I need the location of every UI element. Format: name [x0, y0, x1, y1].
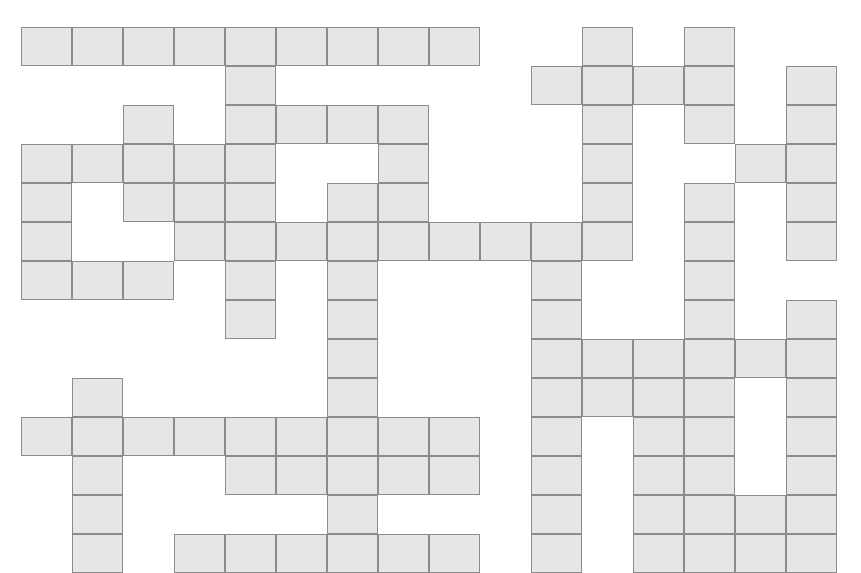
crossword-cell[interactable] — [225, 183, 276, 222]
crossword-cell[interactable] — [123, 144, 174, 183]
crossword-cell[interactable] — [429, 222, 480, 261]
crossword-cell[interactable] — [225, 534, 276, 573]
crossword-cell[interactable] — [174, 417, 225, 456]
crossword-cell[interactable] — [378, 534, 429, 573]
crossword-cell[interactable] — [786, 495, 837, 534]
crossword-cell[interactable] — [276, 456, 327, 495]
crossword-cell[interactable] — [378, 222, 429, 261]
crossword-cell[interactable] — [276, 222, 327, 261]
crossword-cell[interactable] — [174, 534, 225, 573]
crossword-cell[interactable] — [21, 144, 72, 183]
crossword-cell[interactable] — [531, 534, 582, 573]
crossword-cell[interactable] — [72, 456, 123, 495]
crossword-cell[interactable] — [531, 222, 582, 261]
crossword-cell[interactable] — [327, 261, 378, 300]
crossword-cell[interactable] — [684, 261, 735, 300]
crossword-cell[interactable] — [327, 300, 378, 339]
crossword-cell[interactable] — [735, 144, 786, 183]
crossword-cell[interactable] — [684, 105, 735, 144]
crossword-cell[interactable] — [72, 534, 123, 573]
crossword-cell[interactable] — [225, 417, 276, 456]
crossword-cell[interactable] — [531, 66, 582, 105]
crossword-cell[interactable] — [582, 222, 633, 261]
crossword-cell[interactable] — [684, 27, 735, 66]
crossword-cell[interactable] — [429, 456, 480, 495]
crossword-cell[interactable] — [684, 300, 735, 339]
crossword-cell[interactable] — [582, 27, 633, 66]
crossword-cell[interactable] — [327, 27, 378, 66]
crossword-cell[interactable] — [582, 105, 633, 144]
crossword-cell[interactable] — [123, 27, 174, 66]
crossword-cell[interactable] — [429, 534, 480, 573]
crossword-cell[interactable] — [72, 144, 123, 183]
crossword-cell[interactable] — [786, 456, 837, 495]
crossword-cell[interactable] — [786, 66, 837, 105]
crossword-cell[interactable] — [684, 417, 735, 456]
crossword-cell[interactable] — [327, 456, 378, 495]
crossword-cell[interactable] — [123, 105, 174, 144]
crossword-cell[interactable] — [21, 417, 72, 456]
crossword-cell[interactable] — [327, 105, 378, 144]
crossword-cell[interactable] — [378, 183, 429, 222]
crossword-cell[interactable] — [684, 495, 735, 534]
crossword-cell[interactable] — [174, 222, 225, 261]
crossword-cell[interactable] — [72, 495, 123, 534]
crossword-cell[interactable] — [378, 456, 429, 495]
crossword-cell[interactable] — [684, 534, 735, 573]
crossword-cell[interactable] — [633, 339, 684, 378]
crossword-cell[interactable] — [582, 183, 633, 222]
crossword-cell[interactable] — [429, 27, 480, 66]
crossword-cell[interactable] — [684, 339, 735, 378]
crossword-cell[interactable] — [735, 534, 786, 573]
crossword-cell[interactable] — [735, 495, 786, 534]
crossword-cell[interactable] — [174, 183, 225, 222]
crossword-cell[interactable] — [225, 456, 276, 495]
crossword-cell[interactable] — [378, 417, 429, 456]
crossword-cell[interactable] — [786, 378, 837, 417]
crossword-cell[interactable] — [582, 339, 633, 378]
crossword-cell[interactable] — [429, 417, 480, 456]
crossword-cell[interactable] — [633, 378, 684, 417]
crossword-cell[interactable] — [225, 27, 276, 66]
crossword-cell[interactable] — [378, 27, 429, 66]
crossword-cell[interactable] — [633, 534, 684, 573]
crossword-cell[interactable] — [225, 222, 276, 261]
crossword-cell[interactable] — [378, 105, 429, 144]
crossword-cell[interactable] — [633, 66, 684, 105]
crossword-cell[interactable] — [786, 339, 837, 378]
crossword-cell[interactable] — [225, 105, 276, 144]
crossword-cell[interactable] — [174, 27, 225, 66]
crossword-cell[interactable] — [684, 183, 735, 222]
crossword-cell[interactable] — [735, 339, 786, 378]
crossword-cell[interactable] — [786, 144, 837, 183]
crossword-cell[interactable] — [786, 300, 837, 339]
crossword-cell[interactable] — [327, 339, 378, 378]
crossword-cell[interactable] — [72, 417, 123, 456]
crossword-cell[interactable] — [786, 534, 837, 573]
crossword-cell[interactable] — [531, 456, 582, 495]
crossword-cell[interactable] — [633, 456, 684, 495]
crossword-cell[interactable] — [531, 378, 582, 417]
crossword-cell[interactable] — [225, 144, 276, 183]
crossword-cell[interactable] — [786, 222, 837, 261]
crossword-cell[interactable] — [786, 105, 837, 144]
crossword-cell[interactable] — [633, 417, 684, 456]
crossword-cell[interactable] — [582, 378, 633, 417]
crossword-cell[interactable] — [72, 261, 123, 300]
crossword-cell[interactable] — [327, 222, 378, 261]
crossword-cell[interactable] — [531, 495, 582, 534]
crossword-cell[interactable] — [21, 27, 72, 66]
crossword-cell[interactable] — [480, 222, 531, 261]
crossword-cell[interactable] — [327, 183, 378, 222]
crossword-cell[interactable] — [684, 222, 735, 261]
crossword-cell[interactable] — [531, 261, 582, 300]
crossword-cell[interactable] — [123, 417, 174, 456]
crossword-cell[interactable] — [225, 261, 276, 300]
crossword-cell[interactable] — [276, 534, 327, 573]
crossword-cell[interactable] — [21, 222, 72, 261]
crossword-cell[interactable] — [786, 183, 837, 222]
crossword-cell[interactable] — [327, 417, 378, 456]
crossword-cell[interactable] — [276, 105, 327, 144]
crossword-cell[interactable] — [21, 261, 72, 300]
crossword-cell[interactable] — [327, 534, 378, 573]
